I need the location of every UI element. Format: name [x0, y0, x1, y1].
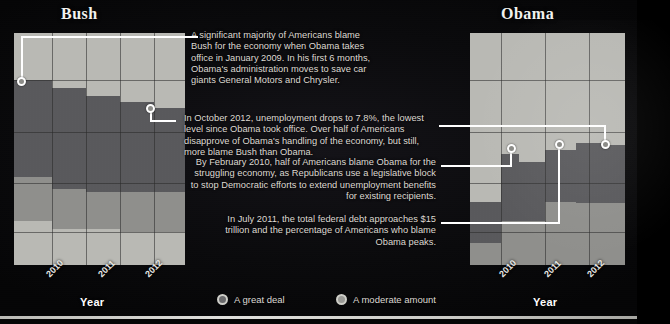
legend-label-moderate-amount: A moderate amount: [353, 294, 436, 305]
callout-leader-line: [558, 145, 560, 223]
annotation-note-1: A significant majority of Americans blam…: [191, 30, 373, 86]
area-great-deal-bush: [86, 96, 120, 192]
area-great-deal-bush: [52, 88, 86, 189]
gridline-horizontal: [470, 232, 625, 233]
callout-leader-line: [184, 36, 198, 38]
gridline-horizontal: [14, 80, 185, 81]
legend-label-great-deal: A great deal: [234, 294, 285, 305]
area-great-deal-obama: [545, 150, 576, 202]
callout-dot-bush-2012[interactable]: [146, 104, 155, 113]
gridline-vertical: [120, 33, 121, 265]
chart-title-obama: Obama: [501, 5, 554, 23]
gridline-vertical: [86, 33, 87, 265]
callout-leader-line: [150, 120, 176, 122]
plot-area-obama: [470, 33, 625, 265]
gridline-horizontal: [470, 132, 625, 133]
chart-title-bush: Bush: [61, 5, 98, 23]
xaxis-label-bush: Year: [80, 296, 104, 308]
gridline-vertical: [52, 33, 53, 265]
area-great-deal-bush: [120, 102, 154, 192]
legend-swatch-moderate-amount: [336, 294, 347, 305]
gridline-vertical: [545, 33, 546, 265]
annotation-note-2: In October 2012, unemployment drops to 7…: [184, 113, 436, 158]
area-great-deal-bush: [14, 80, 52, 177]
gridline-vertical: [501, 33, 502, 265]
gridline-horizontal: [14, 132, 185, 133]
gridline-horizontal: [14, 183, 185, 184]
annotation-note-3: By February 2010, half of Americans blam…: [186, 157, 436, 202]
gridline-vertical: [154, 33, 155, 265]
callout-dot-bush-2009[interactable]: [17, 77, 26, 86]
annotation-note-4: In July 2011, the total federal debt app…: [210, 214, 436, 248]
callout-dot-obama-2010[interactable]: [507, 144, 516, 153]
legend-item-great-deal[interactable]: A great deal: [217, 294, 285, 305]
callout-dot-obama-2012[interactable]: [601, 140, 610, 149]
xaxis-label-obama: Year: [533, 296, 557, 308]
callout-leader-line: [441, 222, 560, 224]
gridline-vertical: [589, 33, 590, 265]
callout-leader-line: [441, 165, 512, 167]
area-great-deal-obama: [519, 162, 545, 221]
area-great-deal-obama: [602, 145, 625, 203]
callout-leader-line: [439, 125, 606, 127]
legend-item-moderate-amount[interactable]: A moderate amount: [336, 294, 436, 305]
plot-area-bush: [14, 33, 185, 265]
gridline-horizontal: [470, 80, 625, 81]
legend-swatch-great-deal: [217, 294, 228, 305]
bottom-edge: [0, 319, 637, 324]
callout-leader-line: [21, 36, 23, 80]
callout-dot-obama-2011[interactable]: [555, 140, 564, 149]
gridline-horizontal: [470, 183, 625, 184]
gridline-horizontal: [14, 232, 185, 233]
callout-leader-line: [21, 36, 184, 38]
